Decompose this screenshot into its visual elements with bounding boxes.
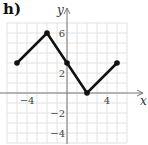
data-point: [114, 60, 120, 66]
data-point: [64, 60, 70, 66]
data-point: [14, 60, 20, 66]
data-point: [84, 90, 90, 96]
y-tick-label: 2: [59, 68, 65, 79]
x-axis-label: x: [140, 94, 147, 108]
data-point: [44, 30, 50, 36]
x-tick-label: 4: [104, 95, 110, 106]
line-chart: xy−4462−2−4: [0, 0, 148, 145]
y-tick-label: −2: [50, 108, 65, 119]
y-tick-label: −4: [50, 128, 65, 139]
x-tick-label: −4: [20, 95, 35, 106]
y-tick-label: 6: [59, 28, 65, 39]
y-axis-label: y: [56, 3, 64, 17]
